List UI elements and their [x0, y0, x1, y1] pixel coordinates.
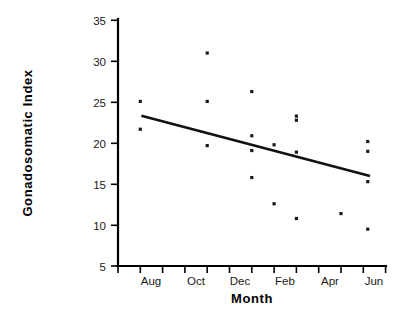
x-tick-label-aug: Aug	[141, 275, 161, 287]
y-tick-label-25: 25	[93, 97, 106, 109]
data-point	[206, 144, 209, 147]
y-tick-label-5: 5	[100, 261, 106, 273]
data-point	[273, 202, 276, 205]
data-point	[139, 128, 142, 131]
trend-line	[141, 116, 370, 176]
data-point	[366, 180, 369, 183]
scatter-plot-figure: 35 30 25 20 15 10 5 Aug Oct	[0, 0, 409, 311]
data-point	[366, 150, 369, 153]
y-tick-label-30: 30	[93, 56, 106, 68]
y-axis-tick-labels: 35 30 25 20 15 10 5	[93, 15, 106, 273]
y-tick-label-15: 15	[93, 179, 106, 191]
data-point	[295, 115, 298, 118]
x-tick-label-jun: Jun	[365, 275, 384, 287]
data-point	[366, 228, 369, 231]
x-tick-label-dec: Dec	[230, 275, 251, 287]
y-tick-label-35: 35	[93, 15, 106, 27]
x-axis-tick-labels: Aug Oct Dec Feb Apr Jun	[141, 275, 384, 287]
x-tick-label-feb: Feb	[275, 275, 295, 287]
data-point	[206, 100, 209, 103]
data-point	[295, 151, 298, 154]
x-tick-label-oct: Oct	[187, 275, 206, 287]
x-axis-title: Month	[231, 291, 273, 306]
data-point	[139, 100, 142, 103]
axes-group	[117, 19, 386, 266]
y-tick-label-10: 10	[93, 220, 106, 232]
x-tick-label-apr: Apr	[321, 275, 339, 287]
data-point	[273, 143, 276, 146]
data-point	[366, 140, 369, 143]
data-point	[250, 134, 253, 137]
data-point	[250, 90, 253, 93]
data-point	[339, 212, 342, 215]
data-point	[206, 51, 209, 54]
data-point	[250, 149, 253, 152]
y-axis-title: Gonadosomatic Index	[20, 69, 35, 216]
data-point	[250, 176, 253, 179]
y-tick-label-20: 20	[93, 138, 106, 150]
chart-canvas: 35 30 25 20 15 10 5 Aug Oct	[0, 0, 409, 311]
data-point	[295, 217, 298, 220]
data-points-group	[139, 51, 370, 230]
data-point	[295, 119, 298, 122]
